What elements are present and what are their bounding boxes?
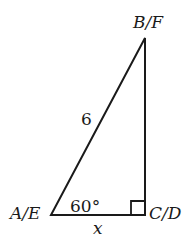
right-angle-marker [131, 201, 145, 215]
vertex-label-top: B/F [133, 14, 163, 31]
triangle [51, 38, 145, 215]
angle-label: 60° [70, 198, 100, 215]
hypotenuse-label: 6 [81, 111, 92, 128]
vertex-label-bottom-left: A/E [10, 205, 40, 222]
base-label: x [93, 220, 103, 237]
vertex-label-bottom-right: C/D [149, 205, 181, 222]
